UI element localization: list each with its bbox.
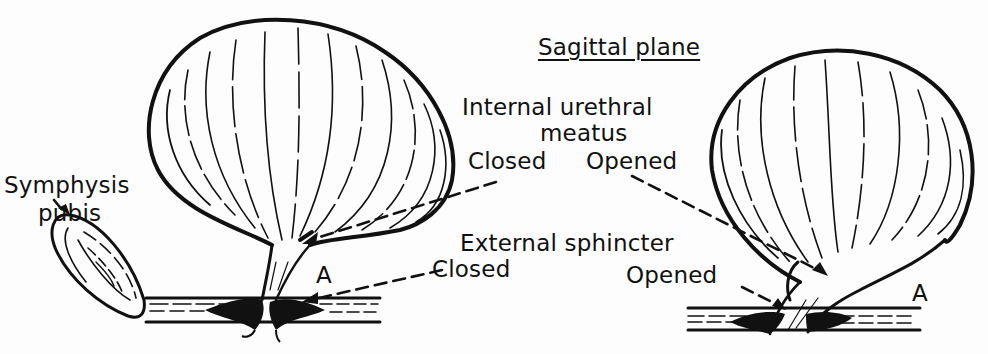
external-opened-label: Opened (626, 264, 717, 287)
bladder-sagittal-diagram: Sagittal plane Symphysis pubis Internal … (0, 0, 988, 354)
marker-a-right: A (912, 282, 928, 305)
internal-opened-label: Opened (586, 150, 677, 173)
diagram-title: Sagittal plane (538, 36, 700, 59)
pelvic-floor-right (688, 308, 920, 330)
internal-meatus-label-line1: Internal urethral (462, 96, 653, 119)
symphysis-pubis-illustration (52, 215, 144, 318)
external-closed-label: Closed (432, 258, 510, 281)
internal-closed-label: Closed (468, 150, 546, 173)
internal-meatus-label-line2: meatus (540, 122, 627, 145)
pointer-internal-opened (632, 176, 822, 272)
bladder-right (711, 51, 972, 282)
urethra-left (262, 245, 310, 300)
symphysis-label-line1: Symphysis (4, 174, 130, 197)
symphysis-label-line2: pubis (38, 202, 101, 225)
external-sphincter-closed (205, 298, 325, 342)
external-sphincter-label: External sphincter (460, 232, 674, 255)
marker-a-left: A (316, 264, 332, 287)
bladder-left (149, 20, 453, 245)
diagram-artwork (0, 0, 988, 354)
